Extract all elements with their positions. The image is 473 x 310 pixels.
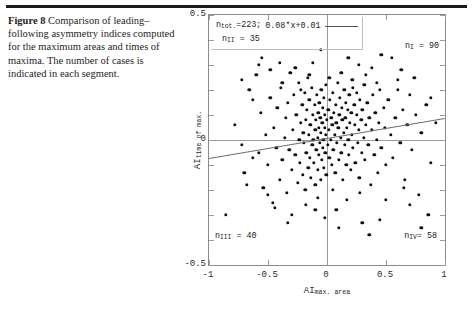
data-point <box>325 118 328 121</box>
data-point <box>318 141 321 144</box>
data-point <box>260 56 263 59</box>
data-point <box>290 168 293 171</box>
data-point <box>332 111 335 114</box>
x-axis-tick <box>386 260 387 265</box>
data-point <box>384 198 387 201</box>
data-point <box>331 123 334 126</box>
data-point <box>290 213 293 216</box>
data-point <box>335 121 338 124</box>
data-point <box>280 81 283 84</box>
data-point <box>335 208 338 211</box>
data-point <box>298 161 301 164</box>
data-point <box>276 106 279 109</box>
y-axis-tick <box>440 90 445 91</box>
data-point <box>356 141 359 144</box>
y-axis-tick <box>440 15 445 16</box>
legend-fit-equation: 0.08*x+0.01 <box>265 20 320 32</box>
data-point <box>434 121 437 124</box>
data-point <box>372 153 375 156</box>
data-point <box>331 91 334 94</box>
data-point <box>254 73 257 76</box>
data-point <box>396 78 399 81</box>
data-point <box>316 168 319 171</box>
data-point <box>318 116 321 119</box>
y-axis-tick <box>209 115 214 116</box>
data-point <box>347 56 350 59</box>
data-point <box>427 213 430 216</box>
data-point <box>262 186 265 189</box>
data-point <box>273 206 276 209</box>
data-point <box>343 143 346 146</box>
data-point <box>321 106 324 109</box>
data-point <box>319 178 322 181</box>
figure-label: Figure 8 <box>8 15 45 26</box>
data-point <box>308 73 311 76</box>
data-point <box>311 143 314 146</box>
chart-legend: ntot.=223; 0.08*x+0.01 nII = 35 <box>211 17 363 50</box>
data-point <box>320 158 323 161</box>
x-axis-tick <box>327 15 328 20</box>
data-point <box>364 73 367 76</box>
data-point <box>314 118 317 121</box>
x-tick-label-1: -0.5 <box>256 270 278 280</box>
data-point <box>295 113 298 116</box>
data-point <box>284 116 287 119</box>
data-point <box>328 156 331 159</box>
data-point <box>251 98 254 101</box>
data-point <box>369 183 372 186</box>
data-point <box>240 143 243 146</box>
data-point <box>320 88 323 91</box>
data-point <box>365 101 368 104</box>
data-point <box>337 126 340 129</box>
data-point <box>323 216 326 219</box>
data-point <box>344 116 347 119</box>
data-point <box>285 191 288 194</box>
data-point <box>375 81 378 84</box>
data-point <box>370 66 373 69</box>
data-point <box>311 113 314 116</box>
data-point <box>345 198 348 201</box>
data-point <box>257 151 260 154</box>
data-point <box>338 96 341 99</box>
quadrant-count-i: nI = 90 <box>405 41 439 51</box>
y-axis-tick <box>209 90 214 91</box>
data-point <box>318 101 321 104</box>
data-point <box>360 118 363 121</box>
data-point <box>408 203 411 206</box>
y-axis-tick <box>440 40 445 41</box>
data-point <box>347 138 350 141</box>
y-axis-tick <box>440 165 445 166</box>
data-point <box>311 61 314 64</box>
data-point <box>247 88 250 91</box>
data-point <box>288 148 291 151</box>
data-point <box>332 148 335 151</box>
data-point <box>289 71 292 74</box>
data-point <box>364 123 367 126</box>
data-point <box>351 78 354 81</box>
data-point <box>328 98 331 101</box>
data-point <box>401 108 404 111</box>
plot-frame: ntot.=223; 0.08*x+0.01 nII = 35 nI = 90 … <box>208 14 446 266</box>
x-tick-label-2: 0 <box>323 270 328 280</box>
data-point <box>304 203 307 206</box>
data-point <box>266 193 269 196</box>
x-axis-tick <box>386 15 387 20</box>
data-point <box>269 68 272 71</box>
data-point <box>243 171 246 174</box>
data-point <box>375 138 378 141</box>
data-point <box>354 161 357 164</box>
data-point <box>353 123 356 126</box>
figure-caption: Figure 8 Comparison of leading–following… <box>8 14 176 80</box>
data-point <box>420 131 423 134</box>
data-point <box>351 146 354 149</box>
data-point <box>357 63 360 66</box>
legend-line-1: ntot.=223; 0.08*x+0.01 <box>216 19 358 33</box>
data-point <box>297 81 300 84</box>
y-axis-tick <box>440 240 445 241</box>
data-point <box>310 86 313 89</box>
data-point <box>336 81 339 84</box>
data-point <box>342 131 345 134</box>
data-point <box>322 96 325 99</box>
plot-area <box>209 15 445 265</box>
data-point <box>377 121 380 124</box>
